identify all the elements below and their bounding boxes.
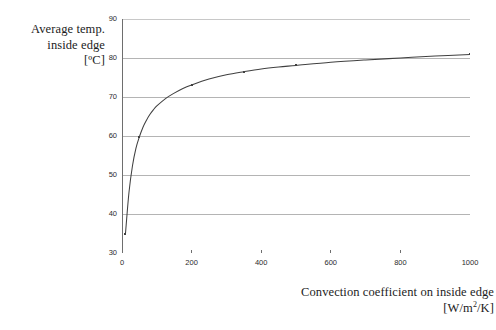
- series-line-average-temp: [125, 54, 470, 233]
- chart-figure: Average temp. inside edge [ºC] 304050607…: [0, 0, 496, 330]
- y-axis-title: Average temp. inside edge [ºC]: [4, 22, 105, 69]
- y-tick-label-60: 60: [91, 131, 117, 140]
- plot-area: [122, 19, 470, 253]
- series-markers: [124, 53, 470, 234]
- y-tick-label-70: 70: [91, 92, 117, 101]
- x-axis-unit-prefix: [W/m: [443, 301, 473, 315]
- x-axis-title-units: [W/m2/K]: [232, 300, 494, 316]
- y-tick-label-40: 40: [91, 209, 117, 218]
- plot-canvas: [122, 19, 470, 253]
- y-tick-label-80: 80: [91, 53, 117, 62]
- x-axis-title-line-1: Convection coefficient on inside edge: [232, 284, 494, 300]
- y-tick-label-50: 50: [91, 170, 117, 179]
- x-axis-title: Convection coefficient on inside edge [W…: [232, 284, 494, 316]
- x-tick-label-800: 800: [380, 258, 420, 267]
- y-axis-title-line-2: inside edge: [4, 38, 105, 54]
- x-tick-marks: [122, 250, 470, 254]
- x-tick-label-1000: 1000: [450, 258, 490, 267]
- x-tick-label-400: 400: [241, 258, 281, 267]
- x-tick-label-200: 200: [172, 258, 212, 267]
- y-axis-title-line-1: Average temp.: [4, 22, 105, 38]
- x-tick-label-600: 600: [311, 258, 351, 267]
- y-tick-label-30: 30: [91, 248, 117, 257]
- x-tick-label-0: 0: [102, 258, 142, 267]
- y-axis-title-line-3: [ºC]: [4, 53, 105, 69]
- y-tick-label-90: 90: [91, 14, 117, 23]
- gridlines: [122, 19, 470, 253]
- x-axis-unit-suffix: /K]: [477, 301, 494, 315]
